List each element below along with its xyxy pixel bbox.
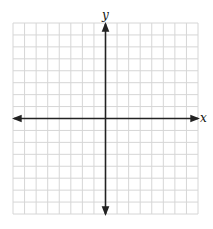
y-axis-label: y — [101, 8, 109, 22]
coordinate-plane: x y — [0, 0, 213, 229]
x-axis-label: x — [200, 111, 207, 125]
